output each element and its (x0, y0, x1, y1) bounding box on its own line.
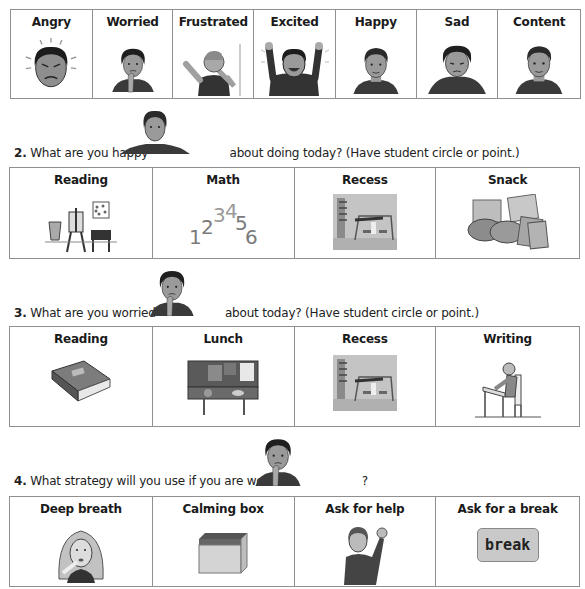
feeling-label: Angry (32, 15, 71, 29)
option-ask-for-help[interactable]: Ask for help (295, 497, 437, 586)
worried-face-icon (109, 40, 157, 96)
question-text-after: about today? (Have student circle or poi… (225, 306, 479, 320)
worried-face-icon (251, 434, 305, 486)
option-label: Math (206, 173, 240, 187)
feeling-label: Content (513, 15, 565, 29)
question-3: 3. What are you worried about today? (Ha… (14, 306, 479, 320)
feeling-label: Sad (445, 15, 470, 29)
option-label: Calming box (182, 502, 263, 516)
question-number: 3. (14, 306, 27, 320)
svg-text:2: 2 (201, 215, 214, 239)
sad-face-icon (428, 42, 486, 94)
option-reading[interactable]: Reading (10, 168, 153, 258)
strategy-options-grid: Deep breath Calming box Ask for help Ask… (9, 496, 580, 587)
question-2: 2. What are you happy about doing today?… (14, 146, 520, 160)
option-ask-for-break[interactable]: Ask for a break break (436, 497, 579, 586)
feeling-sad[interactable]: Sad (417, 10, 499, 98)
feeling-content[interactable]: Content (498, 10, 580, 98)
option-label: Ask for a break (458, 502, 558, 516)
happy-face-icon (120, 108, 190, 154)
feelings-grid: Angry Worried Frustrated Excited (10, 9, 581, 99)
option-calming-box[interactable]: Calming box (153, 497, 295, 586)
feeling-label: Excited (270, 15, 318, 29)
question-number: 2. (14, 146, 27, 160)
playground-icon (332, 355, 398, 411)
question-4: 4. What strategy will you use if you are… (14, 474, 368, 488)
feeling-angry[interactable]: Angry (11, 10, 93, 98)
option-recess[interactable]: Recess (295, 168, 437, 258)
playground-icon (332, 194, 398, 250)
feeling-label: Worried (106, 15, 158, 29)
feeling-label: Frustrated (179, 15, 248, 29)
feeling-happy[interactable]: Happy (336, 10, 417, 98)
break-card-text: break (485, 536, 530, 554)
option-reading[interactable]: Reading (10, 327, 153, 426)
svg-text:1: 1 (189, 225, 202, 249)
option-lunch[interactable]: Lunch (153, 327, 295, 426)
box-icon (197, 531, 249, 575)
option-label: Ask for help (325, 502, 404, 516)
crackers-cookies-icon (465, 194, 551, 252)
question-text-after: about doing today? (Have student circle … (230, 146, 520, 160)
happy-face-icon (350, 42, 402, 94)
svg-text:3: 3 (213, 203, 226, 227)
feeling-frustrated[interactable]: Frustrated (173, 10, 254, 98)
svg-text:6: 6 (245, 225, 258, 249)
worried-options-grid: Reading Lunch Recess Writing (9, 326, 580, 427)
excited-person-icon (261, 38, 329, 96)
content-face-icon (511, 40, 567, 94)
option-label: Recess (342, 332, 388, 346)
question-text-after: ? (362, 474, 368, 488)
option-label: Snack (488, 173, 527, 187)
option-label: Lunch (203, 332, 242, 346)
break-card-icon: break (477, 528, 539, 562)
angry-face-icon (24, 38, 78, 94)
feeling-worried[interactable]: Worried (93, 10, 174, 98)
option-deep-breath[interactable]: Deep breath (10, 497, 153, 586)
option-recess[interactable]: Recess (295, 327, 437, 426)
raised-hand-icon (342, 523, 388, 585)
option-writing[interactable]: Writing (436, 327, 579, 426)
numbers-icon: 1 2 3 4 5 6 (187, 198, 259, 250)
deep-breath-icon (53, 523, 109, 583)
option-label: Reading (54, 173, 108, 187)
question-text-before: What are you worried (30, 306, 156, 320)
question-number: 4. (14, 474, 27, 488)
feeling-label: Happy (355, 15, 397, 29)
option-label: Reading (54, 332, 108, 346)
option-math[interactable]: Math 1 2 3 4 5 6 (153, 168, 295, 258)
lunch-counter-icon (186, 359, 260, 415)
option-label: Writing (483, 332, 532, 346)
frustrated-person-icon (180, 42, 246, 96)
happy-options-grid: Reading Math 1 2 3 4 5 6 Recess (9, 167, 580, 259)
option-label: Recess (342, 173, 388, 187)
option-snack[interactable]: Snack (436, 168, 579, 258)
book-icon (48, 357, 114, 405)
feeling-excited[interactable]: Excited (254, 10, 336, 98)
worried-face-icon (145, 266, 199, 316)
art-easel-icon (45, 200, 117, 254)
student-writing-icon (475, 361, 541, 421)
option-label: Deep breath (40, 502, 122, 516)
